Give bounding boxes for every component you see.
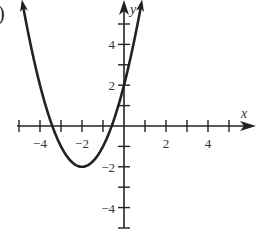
y-tick-label: −4 (101, 201, 115, 216)
y-tick-label: 4 (109, 37, 116, 52)
x-tick-label: −2 (75, 136, 89, 151)
x-tick-label: 2 (163, 136, 170, 151)
y-tick-label: 2 (109, 78, 116, 93)
x-axis-label: x (240, 106, 248, 121)
y-tick-label: −2 (101, 160, 115, 175)
x-tick-label: 4 (205, 136, 212, 151)
part-label: ) (0, 2, 5, 25)
y-axis-label: y (128, 2, 137, 17)
y-axis (119, 0, 129, 228)
x-tick-label: −4 (33, 136, 47, 151)
parabola-graph: ) −4−224 42−2−4 x y (0, 0, 257, 244)
